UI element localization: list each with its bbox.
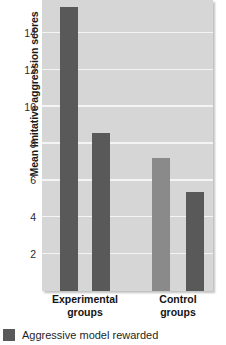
chart-legend: Aggressive model rewarded — [3, 329, 158, 341]
plot-area — [42, 0, 213, 291]
y-tick-label-10: 10 — [24, 101, 36, 113]
bar-3 — [152, 158, 170, 291]
bar-2 — [92, 133, 110, 291]
x-axis-category-labels: ExperimentalgroupsControlgroups — [42, 293, 213, 325]
bar-1 — [60, 7, 78, 291]
y-tick-label-8: 8 — [30, 138, 36, 150]
bar-chart: Mean imitative aggression scores 2468101… — [0, 0, 226, 345]
bar-4 — [186, 192, 204, 291]
category-label-2: Controlgroups — [128, 293, 226, 318]
y-tick-label-12: 12 — [24, 64, 36, 76]
y-tick-label-2: 2 — [30, 248, 36, 260]
y-axis-tick-labels: 2468101214 — [0, 0, 40, 291]
y-tick-label-6: 6 — [30, 174, 36, 186]
y-tick-label-14: 14 — [24, 27, 36, 39]
y-tick-label-4: 4 — [30, 211, 36, 223]
legend-swatch-icon — [3, 329, 15, 341]
legend-label: Aggressive model rewarded — [22, 329, 158, 341]
category-label-1: Experimentalgroups — [35, 293, 135, 318]
